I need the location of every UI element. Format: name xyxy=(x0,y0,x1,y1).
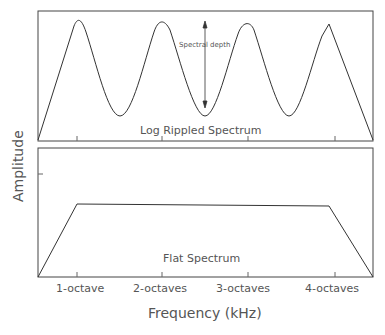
bottom-panel-title: Flat Spectrum xyxy=(163,252,240,265)
tick-label-4: 4-octaves xyxy=(305,282,359,295)
spectral-depth-arrow xyxy=(203,21,207,108)
y-axis-label: Amplitude xyxy=(10,130,26,202)
tick-label-1: 1-octave xyxy=(56,282,105,295)
tick-label-2: 2-octaves xyxy=(133,282,187,295)
tick-label-3: 3-octaves xyxy=(216,282,270,295)
x-axis-label: Frequency (kHz) xyxy=(148,305,262,321)
top-panel-frame xyxy=(38,11,373,141)
top-panel-title: Log Rippled Spectrum xyxy=(140,124,261,137)
flat-spectrum-curve xyxy=(38,204,373,277)
figure: Spectral depth Log Rippled Spectrum Flat… xyxy=(0,0,385,335)
spectral-depth-label: Spectral depth xyxy=(179,41,231,49)
rippled-spectrum-curve xyxy=(38,20,373,140)
